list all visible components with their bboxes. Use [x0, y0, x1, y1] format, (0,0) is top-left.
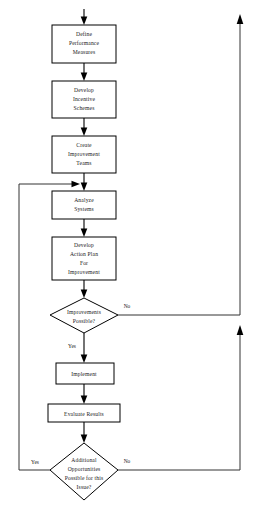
- node-label-line: Additional: [71, 457, 97, 463]
- node-label-line: Evaluate Results: [64, 411, 104, 417]
- flowchart-canvas: Define Performance Measures Develop Ince…: [0, 0, 262, 519]
- node-label-line: Opportunities: [68, 466, 101, 472]
- node-develop-incentive-schemes[interactable]: Develop Incentive Schemes: [52, 81, 116, 118]
- edge-label-improvements-no: No: [124, 303, 131, 309]
- connector-decision1-no: [118, 14, 243, 315]
- connector-evaluate-to-decision2: [81, 422, 88, 443]
- node-label-line: Schemes: [74, 105, 95, 111]
- node-label-line: Analyze: [74, 197, 94, 203]
- connector-define-to-incentive: [81, 63, 88, 81]
- node-create-improvement-teams[interactable]: Create Improvement Teams: [52, 136, 116, 173]
- node-label-line: Performance: [69, 40, 100, 46]
- connector-teams-to-analyze: [81, 173, 88, 191]
- connector-entry: [81, 9, 88, 25]
- connector-actionplan-to-decision1: [81, 280, 88, 298]
- node-label-line: Develop: [74, 87, 94, 93]
- node-analyze-systems[interactable]: Analyze Systems: [52, 191, 116, 219]
- node-improvements-possible[interactable]: Improvements Possible?: [50, 298, 118, 333]
- node-label-line: Improvement: [68, 269, 100, 275]
- node-label-line: Improvement: [68, 151, 100, 157]
- node-develop-action-plan[interactable]: Develop Action Plan For Improvement: [52, 237, 116, 280]
- node-define-performance-measures[interactable]: Define Performance Measures: [52, 25, 116, 63]
- edge-label-additional-yes: Yes: [31, 459, 39, 465]
- node-label-line: Create: [76, 142, 92, 148]
- node-additional-opportunities[interactable]: Additional Opportunities Possible for th…: [50, 443, 118, 500]
- node-label-line: Improvements: [67, 309, 101, 315]
- node-label-line: Issue?: [77, 484, 92, 490]
- node-label-line: Implement: [71, 371, 97, 377]
- connector-loopback-into-analyze: [19, 181, 80, 188]
- node-label-line: Define: [76, 31, 92, 37]
- node-label-line: Teams: [76, 160, 91, 166]
- node-label-line: Measures: [73, 49, 96, 55]
- node-label-line: Possible?: [73, 318, 96, 324]
- edge-label-improvements-yes: Yes: [68, 343, 76, 349]
- node-label-line: Possible for this: [65, 475, 104, 481]
- connector-decision2-no: [118, 325, 243, 470]
- node-label-line: Action Plan: [70, 251, 98, 257]
- connector-left-feedback-spine: [19, 184, 52, 470]
- node-label-line: For: [80, 260, 88, 266]
- connector-incentive-to-teams: [81, 118, 88, 136]
- edge-label-additional-no: No: [124, 458, 131, 464]
- connector-analyze-to-actionplan: [81, 219, 88, 237]
- connector-decision1-yes: [81, 333, 88, 363]
- node-evaluate-results[interactable]: Evaluate Results: [48, 404, 120, 422]
- connector-implement-to-evaluate: [81, 384, 88, 404]
- node-implement[interactable]: Implement: [56, 363, 114, 384]
- node-label-line: Systems: [74, 206, 94, 212]
- node-label-line: Develop: [74, 242, 94, 248]
- node-label-line: Incentive: [73, 96, 96, 102]
